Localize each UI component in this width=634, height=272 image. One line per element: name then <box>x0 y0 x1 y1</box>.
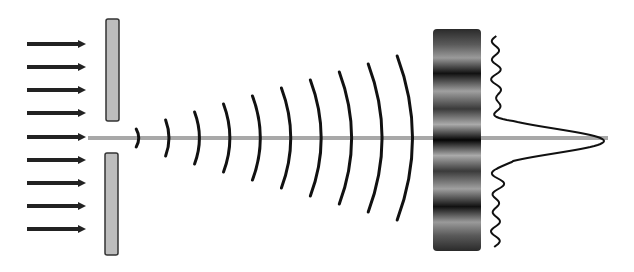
lower-barrier <box>105 153 118 255</box>
diffraction-diagram <box>0 0 634 272</box>
intensity-profile-curve <box>491 36 604 247</box>
incident-wave-arrows <box>27 44 80 229</box>
fringe-screen <box>433 29 481 251</box>
upper-barrier <box>106 19 119 121</box>
diagram-canvas <box>0 0 634 272</box>
